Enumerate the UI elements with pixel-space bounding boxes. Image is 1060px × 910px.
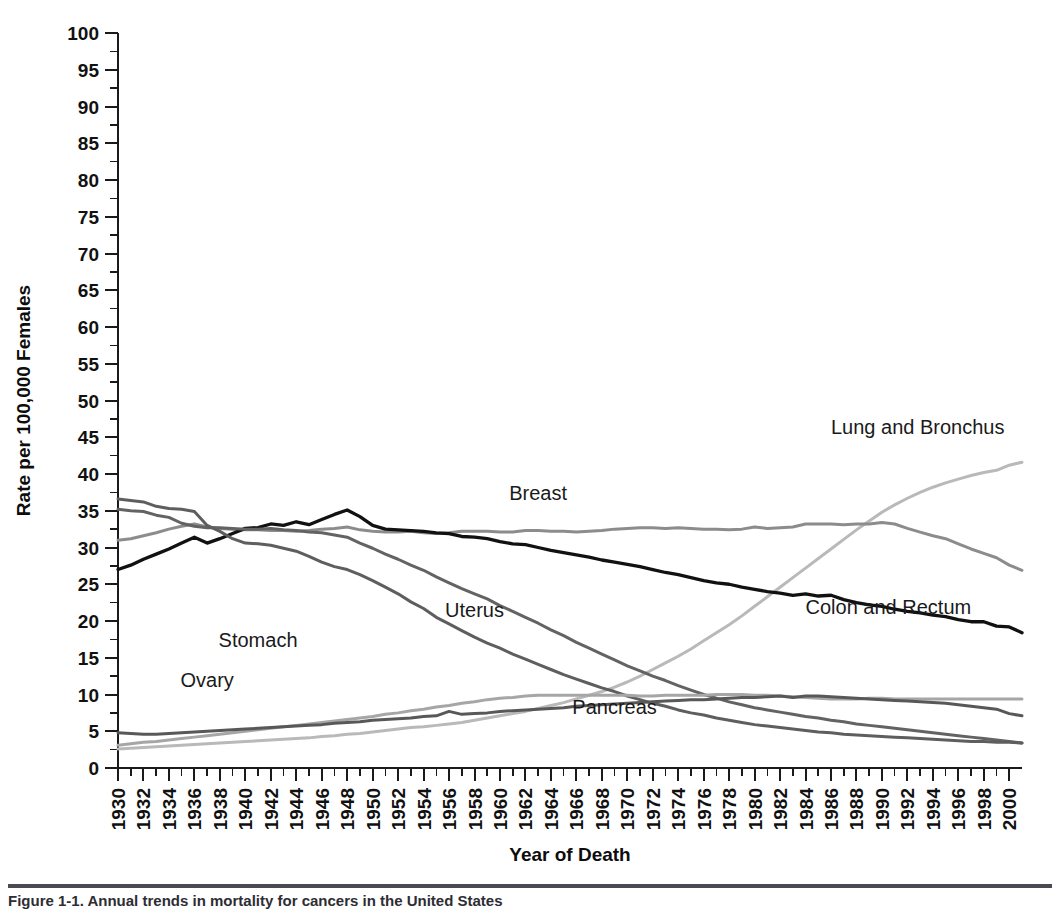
y-tick-label: 90 [78,97,99,118]
x-tick-label: 1956 [439,788,460,830]
y-tick-label: 55 [78,354,100,375]
x-tick-label: 1934 [159,788,180,831]
x-tick-label: 1982 [770,788,791,830]
x-tick-label: 1980 [745,788,766,830]
x-axis-title: Year of Death [509,844,630,865]
x-tick-label: 1988 [846,788,867,830]
y-tick-label: 65 [78,280,100,301]
caption-divider [8,884,1052,888]
y-tick-label: 5 [88,721,99,742]
x-tick-label: 1962 [515,788,536,830]
x-tick-label: 1978 [719,788,740,830]
series-label-ovary: Ovary [180,669,233,691]
y-tick-label: 30 [78,538,99,559]
x-tick-label: 1936 [184,788,205,830]
y-tick-label: 40 [78,464,99,485]
x-tick-label: 1968 [592,788,613,830]
y-tick-label: 35 [78,501,100,522]
x-tick-label: 1994 [923,788,944,831]
x-tick-label: 1992 [897,788,918,830]
x-tick-label: 1970 [617,788,638,830]
y-tick-label: 45 [78,427,100,448]
y-axis-title: Rate per 100,000 Females [13,285,34,516]
x-tick-label: 1960 [490,788,511,830]
series-label-pancreas: Pancreas [572,696,657,718]
x-tick-label: 1986 [821,788,842,830]
x-tick-label: 2000 [999,788,1020,830]
x-tick-label: 1930 [108,788,129,830]
y-tick-label: 60 [78,317,99,338]
y-tick-label: 20 [78,611,99,632]
series-label-breast: Breast [509,482,567,504]
y-tick-label: 15 [78,648,100,669]
x-tick-label: 1990 [872,788,893,830]
x-tick-label: 1972 [643,788,664,830]
x-tick-label: 1996 [948,788,969,830]
x-tick-label: 1942 [261,788,282,830]
x-tick-label: 1950 [363,788,384,830]
x-tick-label: 1984 [796,788,817,831]
series-label-colon-and-rectum: Colon and Rectum [806,596,972,618]
y-tick-label: 0 [88,758,99,779]
y-tick-label: 70 [78,244,99,265]
y-tick-label: 75 [78,207,100,228]
y-tick-label: 50 [78,391,99,412]
x-tick-label: 1952 [388,788,409,830]
x-tick-label: 1966 [566,788,587,830]
y-tick-label: 10 [78,685,99,706]
x-tick-label: 1976 [694,788,715,830]
x-tick-label: 1998 [974,788,995,830]
y-tick-label: 25 [78,574,100,595]
x-tick-label: 1946 [312,788,333,830]
x-tick-label: 1932 [133,788,154,830]
series-label-lung-and-bronchus: Lung and Bronchus [831,416,1004,438]
x-tick-label: 1958 [465,788,486,830]
series-label-stomach: Stomach [219,629,298,651]
x-tick-label: 1964 [541,788,562,831]
x-tick-label: 1938 [210,788,231,830]
y-tick-label: 100 [67,23,99,44]
x-tick-label: 1974 [668,788,689,831]
x-tick-label: 1954 [414,788,435,831]
x-tick-label: 1948 [337,788,358,830]
series-label-uterus: Uterus [445,599,504,621]
figure-caption: Figure 1-1. Annual trends in mortality f… [8,892,1052,910]
axis-spines [118,33,1022,768]
series-annotations: Lung and BronchusBreastColon and RectumU… [180,416,1004,719]
x-tick-label: 1944 [286,788,307,831]
y-tick-label: 80 [78,170,99,191]
x-tick-label: 1940 [235,788,256,830]
y-tick-label: 95 [78,60,100,81]
y-tick-label: 85 [78,133,100,154]
